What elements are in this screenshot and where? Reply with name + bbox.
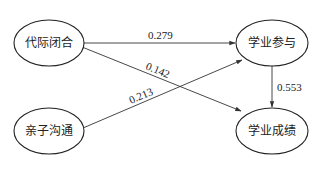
node-label: 代际闭合 [25, 35, 73, 50]
edge-label-0553: 0.553 [277, 81, 302, 93]
edge-engagement-to-achievement: 0.553 [272, 66, 302, 107]
node-academic-achievement: 学业成绩 [236, 108, 308, 154]
node-label: 学业成绩 [248, 123, 296, 138]
node-parent-child-communication: 亲子沟通 [14, 108, 84, 154]
node-label: 亲子沟通 [25, 124, 73, 138]
edge-closure-to-engagement: 0.279 [84, 29, 235, 43]
edge-closure-to-achievement: 0.142 [82, 47, 241, 111]
edge-label-0142: 0.142 [144, 60, 171, 80]
node-label: 学业参与 [248, 35, 296, 50]
node-academic-engagement: 学业参与 [236, 20, 308, 66]
node-intergenerational-closure: 代际闭合 [14, 20, 84, 66]
edge-label-0279: 0.279 [148, 29, 173, 41]
path-diagram: 0.279 0.142 0.213 0.553 代际闭合 学业参与 亲子沟通 学… [0, 0, 328, 174]
